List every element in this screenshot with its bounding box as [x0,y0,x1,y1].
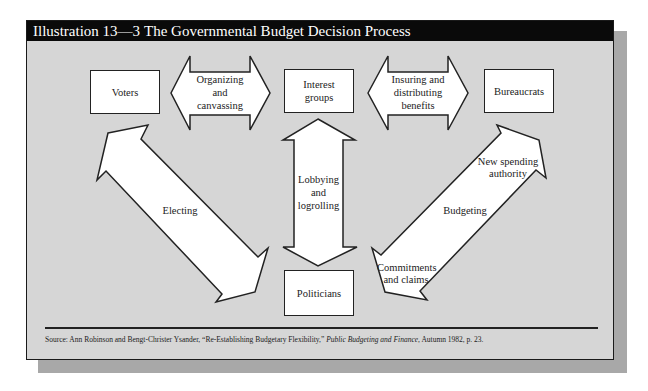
insuring-label-line: distributing [384,86,452,99]
node-interest-groups-label: Interest groups [291,78,347,104]
node-voters: Voters [90,70,160,114]
source-suffix: , Autumn 1982, p. 23. [418,335,483,344]
insuring-label-line: benefits [384,99,452,112]
new-spending-label-line: New spending [472,156,544,168]
source-citation: Source: Ann Robinson and Bengt-Christer … [45,335,483,344]
organizing-label-line: Organizing [190,73,250,86]
node-politicians-label: Politicians [297,287,341,300]
new-spending-label-line: authority [472,168,544,180]
lobbying-label-line: Lobbying [294,173,343,186]
source-journal: Public Budgeting and Finance [326,335,418,344]
lobbying-label-line: logrolling [294,199,343,212]
lobbying-label-line: and [294,186,343,199]
budgeting-label: Budgeting [437,204,493,217]
new-spending-label: New spending authority [472,156,544,180]
electing-label: Electing [150,204,210,217]
commitments-label-line: and claims [377,274,435,286]
node-voters-label: Voters [112,86,139,99]
node-politicians: Politicians [284,270,354,316]
node-bureaucrats: Bureaucrats [484,69,554,113]
insuring-label-line: Insuring and [384,73,452,86]
node-interest-groups: Interest groups [284,69,354,113]
organizing-label: Organizing and canvassing [190,73,250,112]
node-bureaucrats-label: Bureaucrats [494,85,544,98]
organizing-label-line: canvassing [190,99,250,112]
lobbying-label: Lobbying and logrolling [294,173,343,212]
organizing-label-line: and [190,86,250,99]
footer-rule [45,327,598,329]
insuring-label: Insuring and distributing benefits [384,73,452,112]
source-prefix: Source: Ann Robinson and Bengt-Christer … [45,335,326,344]
commitments-label: Commitments and claims [377,262,435,286]
commitments-label-line: Commitments [377,262,435,274]
